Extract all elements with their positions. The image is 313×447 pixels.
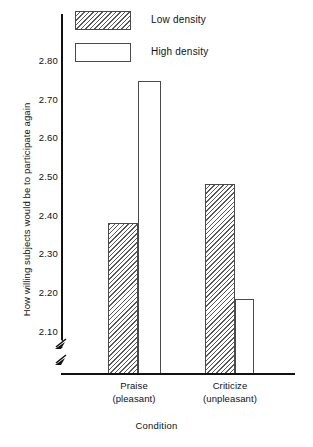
bar-chart: Low density High density 2.80 2.70 2.60 … [0, 0, 313, 447]
praise-high-density-bar [138, 81, 161, 374]
x-category-criticize-line2: (unpleasant) [170, 392, 290, 405]
x-category-label-criticize: Criticize (unpleasant) [170, 379, 290, 405]
criticize-high-density-bar [235, 299, 254, 374]
legend-label-high-density: High density [151, 46, 208, 57]
x-category-criticize-line1: Criticize [213, 380, 248, 391]
legend-label-low-density: Low density [151, 14, 206, 25]
y-tick-label-2-80: 2.80 [22, 56, 58, 66]
x-axis-line [61, 373, 295, 375]
x-axis-title: Condition [0, 420, 313, 431]
legend-swatch-open-icon [75, 43, 131, 62]
praise-low-density-bar [108, 223, 138, 374]
legend-swatch-hatched-icon [75, 11, 131, 30]
y-axis-title: How willing subjects would be to partici… [21, 90, 32, 330]
y-axis-line [61, 14, 63, 348]
x-category-praise-line1: Praise [120, 380, 148, 391]
criticize-low-density-bar [205, 184, 235, 374]
